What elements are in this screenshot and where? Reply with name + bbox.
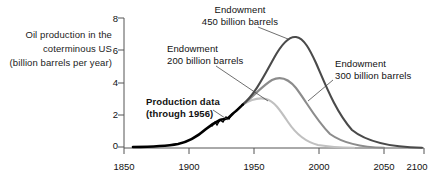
- y-axis-caption-line-3: (billion barrels per year): [0, 56, 112, 70]
- x-tick-label-1850: 1850: [104, 161, 144, 172]
- x-tick-label-1950: 1950: [234, 161, 274, 172]
- annotation-endowment-450-line-2: 450 billion barrels: [185, 16, 295, 28]
- x-tick-label-2000: 2000: [299, 161, 339, 172]
- y-tick-label-0: 0: [104, 140, 118, 151]
- y-axis-ticks: [118, 18, 124, 147]
- x-axis-ticks: [124, 148, 424, 154]
- chart-figure: Oil production in the coterminous US (bi…: [0, 0, 437, 185]
- annotation-endowment-300: Endowment 300 billion barrels: [335, 58, 411, 81]
- annotation-endowment-300-line-1: Endowment: [335, 58, 411, 70]
- y-axis-caption: Oil production in the coterminous US (bi…: [0, 28, 112, 70]
- annotation-endowment-300-line-2: 300 billion barrels: [335, 70, 411, 82]
- leader-lines: [213, 27, 333, 120]
- curve-endowment-450: [242, 37, 422, 148]
- y-tick-label-6: 6: [104, 45, 118, 56]
- leader-line-300: [308, 80, 333, 101]
- annotation-endowment-200-line-2: 200 billion barrels: [167, 55, 243, 67]
- y-tick-label-8: 8: [104, 13, 118, 24]
- annotation-production-data-line-2: (through 1956): [146, 108, 220, 120]
- annotation-production-data-line-1: Production data: [146, 96, 220, 108]
- y-tick-label-4: 4: [104, 77, 118, 88]
- x-tick-label-1900: 1900: [169, 161, 209, 172]
- annotation-endowment-200: Endowment 200 billion barrels: [167, 43, 243, 66]
- y-axis-caption-line-2: coterminous US: [0, 42, 112, 56]
- x-tick-label-2100: 2100: [397, 161, 437, 172]
- annotation-endowment-450: Endowment 450 billion barrels: [185, 4, 295, 27]
- y-axis-caption-line-1: Oil production in the: [0, 28, 112, 42]
- annotation-production-data: Production data (through 1956): [146, 96, 220, 119]
- y-tick-label-2: 2: [104, 109, 118, 120]
- curve-endowment-200: [242, 98, 354, 147]
- annotation-endowment-200-line-1: Endowment: [167, 43, 243, 55]
- leader-line-450: [258, 27, 288, 39]
- axes: [118, 18, 424, 154]
- annotation-endowment-450-line-1: Endowment: [185, 4, 295, 16]
